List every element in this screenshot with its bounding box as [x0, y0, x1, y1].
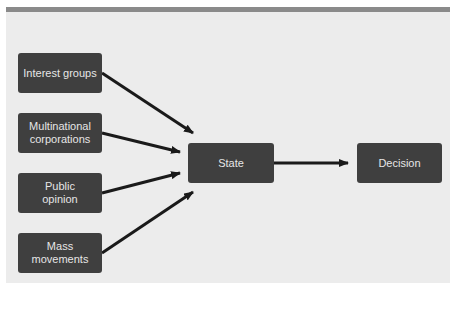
node-multinational-corporations: Multinational corporations [18, 113, 102, 153]
node-label: State [218, 157, 244, 170]
node-label: Decision [378, 157, 420, 170]
arrow-mass-to-state [102, 192, 193, 253]
node-state: State [188, 143, 274, 183]
arrow-interest-to-state [102, 73, 193, 133]
node-label: Mass movements [30, 240, 90, 266]
node-public-opinion: Public opinion [18, 173, 102, 213]
node-interest-groups: Interest groups [18, 53, 102, 93]
node-decision: Decision [357, 143, 442, 183]
node-label: Public opinion [38, 180, 82, 206]
arrow-multinational-to-state [102, 133, 180, 152]
node-label: Multinational corporations [22, 120, 98, 146]
node-mass-movements: Mass movements [18, 233, 102, 273]
arrow-public-to-state [102, 173, 180, 193]
node-label: Interest groups [23, 67, 96, 80]
